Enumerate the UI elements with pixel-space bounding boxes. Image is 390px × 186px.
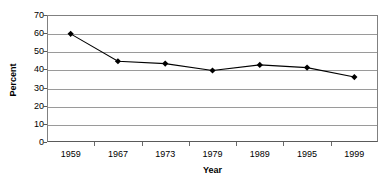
- data-point-marker: [209, 67, 215, 73]
- line-chart: Percent 010203040506070 1959196719731979…: [0, 0, 390, 186]
- data-point-marker: [257, 62, 263, 68]
- data-point-marker: [162, 61, 168, 67]
- data-point-marker: [68, 31, 74, 37]
- data-point-marker: [351, 74, 357, 80]
- data-point-marker: [115, 58, 121, 64]
- data-series-line: [0, 0, 390, 186]
- data-point-marker: [304, 65, 310, 71]
